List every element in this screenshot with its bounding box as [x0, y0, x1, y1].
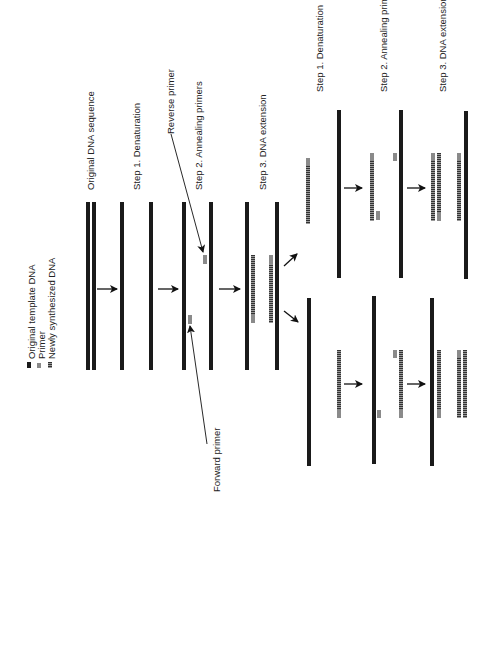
arrow-icon	[284, 311, 298, 322]
arrow-icon	[284, 254, 297, 266]
arrows-layer	[0, 0, 482, 656]
forward-primer-pointer	[190, 326, 207, 444]
reverse-primer-pointer	[171, 134, 203, 252]
